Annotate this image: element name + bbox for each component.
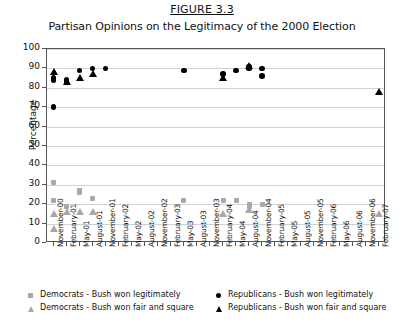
x-tick-label: May-03 [186, 221, 195, 247]
x-tick-label: November-04 [264, 198, 273, 247]
x-tick-label: February-07 [381, 204, 390, 247]
x-tick-label: August-06 [355, 210, 364, 247]
legend: Democrats - Bush won legitimately Republ… [28, 290, 404, 316]
data-point [51, 77, 57, 83]
y-tick-label: 70 [14, 100, 40, 110]
y-tick-label: 80 [14, 81, 40, 91]
x-tick-mark [79, 242, 80, 246]
x-tick-label: February-01 [69, 204, 78, 247]
gridline [47, 49, 384, 50]
square-marker-icon [28, 293, 33, 298]
y-tick-label: 100 [14, 42, 40, 52]
data-point [234, 198, 239, 203]
triangle-marker-icon [28, 306, 34, 312]
x-tick-mark [66, 242, 67, 246]
x-tick-mark [53, 242, 54, 246]
data-point [77, 190, 82, 195]
circle-marker-icon [216, 293, 221, 298]
gridline [47, 127, 384, 128]
x-tick-mark [92, 242, 93, 246]
y-tick-label: 10 [14, 217, 40, 227]
x-tick-mark [300, 242, 301, 246]
x-tick-label: May-02 [134, 221, 143, 247]
x-tick-label: November-06 [368, 198, 377, 247]
x-tick-label: May-05 [290, 221, 299, 247]
x-tick-mark [274, 242, 275, 246]
x-tick-mark [326, 242, 327, 246]
x-tick-label: February-03 [173, 204, 182, 247]
x-tick-label: May-04 [238, 221, 247, 247]
x-tick-mark [248, 242, 249, 246]
y-tick-label: 60 [14, 120, 40, 130]
y-tick-label: 0 [14, 236, 40, 246]
x-tick-mark [131, 242, 132, 246]
x-tick-label: February-04 [225, 204, 234, 247]
x-tick-mark [105, 242, 106, 246]
x-tick-label: August-02 [147, 210, 156, 247]
gridline [47, 107, 384, 108]
gridline [47, 185, 384, 186]
figure-number: FIGURE 3.3 [0, 3, 404, 16]
data-point [233, 68, 239, 74]
legend-label: Republicans - Bush won fair and square [228, 303, 386, 312]
y-tick-label: 20 [14, 197, 40, 207]
data-point [50, 68, 58, 75]
data-point [181, 68, 187, 74]
data-point [181, 198, 186, 203]
data-point [221, 198, 226, 203]
figure-header: FIGURE 3.3 Partisan Opinions on the Legi… [0, 0, 404, 33]
x-tick-mark [365, 242, 366, 246]
x-tick-mark [118, 242, 119, 246]
data-point [90, 196, 95, 201]
x-tick-label: November-02 [160, 198, 169, 247]
data-point [245, 62, 253, 69]
data-point [89, 70, 97, 77]
x-tick-mark [313, 242, 314, 246]
y-tick-label: 40 [14, 158, 40, 168]
data-point [76, 74, 84, 81]
data-point [63, 78, 71, 85]
data-point [51, 104, 57, 110]
x-tick-mark [352, 242, 353, 246]
data-point [259, 73, 265, 79]
gridline [47, 146, 384, 147]
gridline [47, 88, 384, 89]
x-tick-label: February-06 [329, 204, 338, 247]
x-tick-label: August-03 [199, 210, 208, 247]
x-tick-mark [261, 242, 262, 246]
x-tick-mark [287, 242, 288, 246]
legend-row: Democrats - Bush won fair and square Rep… [28, 303, 404, 316]
y-tick-label: 50 [14, 139, 40, 149]
x-tick-mark [222, 242, 223, 246]
x-tick-label: November-01 [108, 198, 117, 247]
x-tick-mark [157, 242, 158, 246]
legend-label: Democrats - Bush won fair and square [40, 303, 194, 312]
x-tick-mark [144, 242, 145, 246]
x-tick-label: May-06 [342, 221, 351, 247]
x-tick-label: February-05 [277, 204, 286, 247]
gridline [47, 68, 384, 69]
legend-label: Democrats - Bush won legitimately [40, 290, 181, 299]
data-point [103, 66, 109, 72]
data-point [77, 68, 83, 74]
x-tick-mark [378, 242, 379, 246]
figure-title: Partisan Opinions on the Legitimacy of t… [0, 20, 404, 33]
x-tick-mark [209, 242, 210, 246]
x-tick-label: August-05 [303, 210, 312, 247]
triangle-marker-icon [216, 306, 222, 312]
legend-row: Democrats - Bush won legitimately Republ… [28, 290, 404, 303]
data-point [51, 180, 56, 185]
x-tick-mark [170, 242, 171, 246]
data-point [259, 66, 265, 72]
y-tick-label: 30 [14, 178, 40, 188]
y-tick-mark [42, 242, 46, 243]
x-tick-label: February-02 [121, 204, 130, 247]
data-point [219, 74, 227, 81]
x-tick-mark [196, 242, 197, 246]
x-tick-label: November-05 [316, 198, 325, 247]
x-tick-mark [339, 242, 340, 246]
source-note [28, 320, 398, 329]
x-tick-mark [183, 242, 184, 246]
x-tick-label: November-03 [212, 198, 221, 247]
x-tick-label: May-01 [82, 221, 91, 247]
